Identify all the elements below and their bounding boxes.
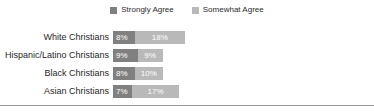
bar-track: 8% 10% [113, 67, 374, 80]
bar-value-label: 18% [152, 33, 168, 42]
bar-value-label: 8% [116, 33, 128, 42]
legend-label-strongly-agree: Strongly Agree [121, 5, 173, 15]
bar-value-label: 7% [116, 87, 128, 96]
legend-item-strongly-agree[interactable]: Strongly Agree [110, 5, 173, 15]
bar-segment-strongly-agree[interactable]: 9% [113, 49, 138, 62]
bar-segment-strongly-agree[interactable]: 7% [113, 85, 132, 98]
bar-track: 7% 17% [113, 85, 374, 98]
category-label: Asian Christians [0, 86, 113, 97]
chart-row: Asian Christians 7% 17% [0, 82, 374, 100]
bar-segment-somewhat-agree[interactable]: 10% [135, 67, 163, 80]
legend-swatch-icon-somewhat-agree [192, 7, 199, 14]
bar-segment-somewhat-agree[interactable]: 9% [138, 49, 163, 62]
legend-item-somewhat-agree[interactable]: Somewhat Agree [192, 5, 264, 15]
stacked-bar-chart: Strongly Agree Somewhat Agree White Chri… [0, 0, 374, 112]
chart-legend: Strongly Agree Somewhat Agree [0, 5, 374, 15]
category-label: Hispanic/Latino Christians [0, 50, 113, 61]
category-label: White Christians [0, 32, 113, 43]
bar-segment-somewhat-agree[interactable]: 18% [135, 31, 185, 44]
legend-swatch-icon-strongly-agree [110, 7, 117, 14]
bar-track: 9% 9% [113, 49, 374, 62]
bar-segment-strongly-agree[interactable]: 8% [113, 67, 135, 80]
legend-label-somewhat-agree: Somewhat Agree [203, 5, 264, 15]
category-label: Black Christians [0, 68, 113, 79]
bar-value-label: 17% [148, 87, 164, 96]
bar-value-label: 9% [144, 51, 156, 60]
bottom-divider [0, 105, 374, 106]
bar-track: 8% 18% [113, 31, 374, 44]
bar-segment-somewhat-agree[interactable]: 17% [132, 85, 179, 98]
bar-segment-strongly-agree[interactable]: 8% [113, 31, 135, 44]
chart-row: Hispanic/Latino Christians 9% 9% [0, 46, 374, 64]
bar-value-label: 8% [116, 69, 128, 78]
chart-row: White Christians 8% 18% [0, 28, 374, 46]
bar-value-label: 9% [116, 51, 128, 60]
chart-row: Black Christians 8% 10% [0, 64, 374, 82]
bar-value-label: 10% [141, 69, 157, 78]
plot-area: White Christians 8% 18% Hispanic/Latino … [0, 28, 374, 100]
